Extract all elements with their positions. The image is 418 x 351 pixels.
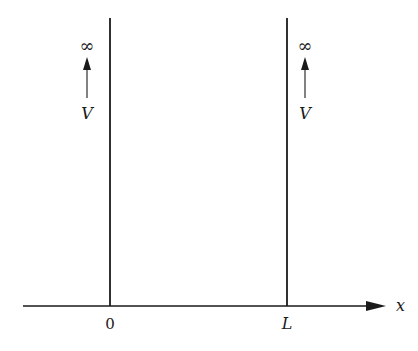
right-wall-potential-label: V (299, 104, 312, 123)
right-wall-infinity-label: ∞ (298, 35, 313, 56)
left-wall-up-arrowhead-icon (83, 57, 91, 70)
x-axis-label: x (396, 296, 405, 315)
right-wall-position-label: L (281, 314, 293, 333)
x-axis: x (23, 296, 405, 315)
left-wall-position-label: 0 (105, 315, 115, 333)
right-wall: L ∞ V (281, 18, 313, 333)
x-axis-arrowhead-icon (366, 301, 386, 311)
left-wall-potential-label: V (81, 104, 94, 123)
right-wall-up-arrowhead-icon (301, 57, 309, 70)
left-wall: 0 ∞ V (80, 18, 115, 333)
infinite-square-well-diagram: x 0 ∞ V L ∞ V (0, 0, 418, 351)
left-wall-infinity-label: ∞ (80, 35, 95, 56)
